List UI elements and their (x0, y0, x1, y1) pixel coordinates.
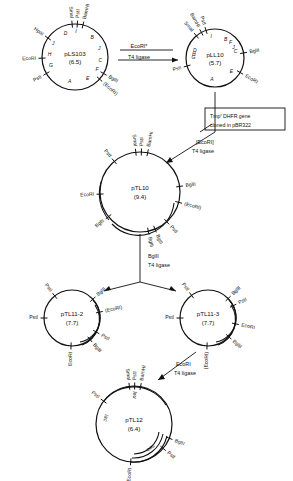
pTL11-2-site-label-4: PstI (100, 332, 111, 342)
pTL10-tick-1 (135, 149, 136, 156)
pTL12-gene-lac: lac (102, 414, 109, 422)
pLS103-segment-0: D (64, 30, 68, 36)
step-4-enzyme: EcoRI (176, 361, 191, 367)
pLL10-segment-1: I (211, 33, 213, 39)
pLS103-segment-5: G (49, 62, 53, 68)
pLS103-name: pLS103 (64, 50, 86, 57)
pLS103-segment-1: I (75, 28, 77, 34)
pTL10-site-label-7: BglII (93, 217, 105, 228)
pTL11-2-site-label-2: BglII (95, 286, 107, 297)
figure-canvas: EcoRI* T4 ligase [EcoRI] T4 ligase BglII… (0, 0, 293, 481)
note-line-1: Tmpr DHFR gene (210, 113, 251, 119)
pTL10-name: pTL10 (131, 184, 149, 191)
pLS103-tick-0 (45, 36, 51, 40)
pLL10-site-label-4: BglII (249, 47, 260, 55)
pTL10-site-label-8: BglII (147, 236, 155, 247)
pTL11-2-tick-3 (96, 311, 103, 312)
pTL10-size: (9.4) (134, 193, 147, 200)
pTL11-3-tick-0 (189, 293, 193, 299)
pTL10-site-label-4: BglII (185, 181, 196, 188)
tmp-dhfr-note: Tmpr DHFR gene cloned in pBR322 (205, 108, 285, 130)
pTL10-tick-3 (147, 149, 148, 156)
pLS103-site-label-0: HpaI (33, 25, 45, 36)
pLS103-site-label-2: PstI (32, 73, 43, 83)
pTL10-site-label-0: PstI (103, 148, 113, 159)
pLS103-segment-10: F (96, 66, 100, 72)
pTL11-2-site-label-5: BglII (92, 342, 103, 354)
pTL11-2-site-label-1: PstI (29, 314, 38, 320)
pTL12-name: pTL12 (125, 416, 143, 423)
plasmid-construction-figure: EcoRI* T4 ligase [EcoRI] T4 ligase BglII… (0, 0, 293, 481)
pTL12-gene-neo: neo (146, 443, 157, 453)
plasmid-pTL11-2: pTL11-2 (7.7) PstIPstIBglII(EcoRI)PstIBg… (29, 282, 123, 366)
pLS103-segment-2: J (51, 40, 55, 46)
pLS103-segment-8: C (98, 57, 102, 63)
plasmid-pLS103: pLS103 (6.5) HpaIEcoRIPstISmaIPstIBamHIB… (22, 3, 119, 96)
pLS103-segment-9: E (86, 75, 90, 81)
pLS103-segment-6: A (67, 78, 72, 84)
pLL10-segment-0: B (224, 36, 228, 42)
note-line-2: cloned in pBR322 (210, 122, 251, 128)
pLL10-segment-5: A (209, 76, 214, 82)
pLL10-sites: BamHIPstISmaIPstIBglIIEcoRI (172, 12, 260, 85)
pLS103-site-label-7: (EcoRI) (102, 80, 119, 96)
pTL11-3-site-label-4: EcoRI (241, 321, 256, 330)
plasmid-pTL10: pTL10 (9.4) PstISmaIPstIBamHIBglII(EcoRI… (80, 131, 202, 248)
pTL11-2-insert-arc (80, 300, 100, 342)
step-3-enzyme: BglII (148, 253, 159, 259)
step-3-ligase: T4 ligase (148, 262, 170, 268)
pTL12-tick-6 (130, 458, 131, 465)
pLS103-segment-4: H (48, 51, 52, 57)
pTL11-2-site-label-6: EcoRI (67, 352, 73, 366)
pTL11-2-name: pTL11-2 (61, 310, 84, 317)
pLS103-site-label-5: BamHI (81, 3, 91, 20)
pTL11-3-site-label-6: (EcoRI) (203, 352, 210, 370)
pTL12-tick-3 (140, 383, 141, 390)
arrowhead-step-1 (172, 58, 178, 63)
arrowhead-step-3-right (169, 286, 176, 291)
pLS103-segment-3: B (90, 34, 94, 40)
step-labels: EcoRI* T4 ligase [EcoRI] T4 ligase BglII… (128, 43, 214, 376)
pTL11-2-backbone (44, 290, 100, 346)
pTL11-3-site-label-1: PstI (165, 314, 174, 320)
pLS103-size: (6.5) (69, 58, 82, 65)
pTL11-2-size: (7.7) (66, 319, 79, 326)
pTL11-3-site-label-2: BglII (230, 285, 242, 296)
pLS103-site-label-1: EcoRI (22, 55, 36, 61)
pTL11-3-site-label-5: BglII (232, 338, 244, 349)
pLL10-tick-4 (240, 52, 247, 53)
pTL12-site-label-5: PstI (166, 449, 177, 459)
note-line-1-pre: Tmp (210, 113, 220, 119)
note-line-1-post: DHFR gene (222, 113, 251, 119)
pLL10-name: pLL10 (206, 51, 224, 58)
step-1-ligase: T4 ligase (128, 54, 150, 60)
step-4-ligase: T4 ligase (174, 370, 196, 376)
pLS103-site-label-4: PstI (74, 9, 81, 18)
pLL10-segment-9: E (230, 68, 234, 74)
pLL10-segment-4: H (192, 51, 196, 57)
pTL11-3-site-label-3: PstI (237, 296, 248, 305)
pTL12-tick-1 (129, 383, 130, 390)
pTL12-site-label-4: BglII (174, 437, 186, 446)
step-1-enzyme: EcoRI* (131, 43, 149, 49)
plasmid-pTL11-3: pTL11-3 (7.7) PstIPstIBglIIPstIEcoRIBglI… (165, 281, 255, 369)
pLL10-segment-7: C (234, 48, 238, 54)
pTL11-3-site-label-0: PstI (181, 281, 191, 292)
pTL10-site-label-6: EcoRI (80, 191, 94, 198)
pTL11-3-tick-4 (232, 323, 239, 324)
pTL12-neo-arc-3 (134, 432, 159, 454)
pTL11-2-site-label-3: (EcoRI) (104, 304, 122, 314)
pTL12-gene-leu: leu (132, 391, 138, 398)
flow-arrows (104, 50, 215, 380)
plasmid-pTL12: pTL12 (6.4) PstISmaIPstIBamHIBglIIPstIEc… (90, 365, 185, 481)
pTL12-site-label-2: PstI (131, 371, 137, 380)
pTL10-site-label-3: BamHI (145, 131, 154, 147)
plasmid-pLL10: pLL10 (5.7) BamHIPstISmaIPstIBglIIEcoRI … (172, 12, 260, 87)
pTL10-tick-4 (176, 186, 183, 187)
pTL12-size: (6.4) (128, 425, 141, 432)
pTL12-neo-arc-2 (132, 434, 163, 458)
step-2-enzyme: [EcoRI] (196, 139, 214, 145)
pTL12-site-label-3: BamHI (138, 365, 147, 381)
pTL10-site-label-5: (EcoRI) (184, 200, 203, 210)
pTL11-3-name: pTL11-3 (197, 310, 220, 317)
